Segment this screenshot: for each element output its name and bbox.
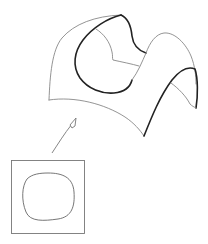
arrow-shaft: [52, 124, 72, 153]
surface-right-arch: [146, 33, 196, 84]
surface-front-fold: [132, 53, 146, 80]
diagram-canvas: [0, 0, 208, 244]
surface-right-fold: [171, 83, 196, 108]
surface-bottom-edge: [49, 99, 144, 136]
surface-left-edge: [49, 15, 121, 100]
surface-inner-loop: [75, 15, 132, 93]
parameter-domain: [12, 161, 85, 234]
surface-patch: [49, 15, 197, 136]
surface-top-ridge: [121, 15, 146, 53]
mapping-arrow: [52, 118, 76, 153]
domain-curve: [23, 173, 74, 220]
arrow-head-icon: [70, 118, 76, 128]
